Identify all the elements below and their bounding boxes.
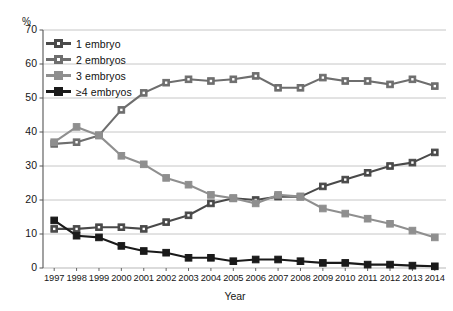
legend-swatch-icon (46, 38, 71, 49)
data-point-marker (320, 205, 327, 212)
data-point-marker (342, 210, 349, 217)
data-point-marker (409, 262, 416, 269)
data-point-marker (51, 217, 58, 224)
data-point-marker-center (344, 178, 346, 180)
data-point-marker (73, 124, 80, 131)
data-point-marker (252, 200, 259, 207)
data-point-marker (73, 232, 80, 239)
legend-item-label: 2 embryos (76, 54, 126, 66)
legend-marker (54, 71, 63, 80)
data-point-marker (275, 192, 282, 199)
series-line (54, 127, 435, 237)
data-point-marker (163, 175, 170, 182)
y-axis-tick-label: 0 (15, 261, 37, 273)
legend-swatch-icon (46, 86, 71, 97)
legend-marker (54, 87, 63, 96)
series--4-embryos (51, 217, 438, 270)
y-axis-tick-label: 10 (15, 227, 37, 239)
y-axis-tick-label: 20 (15, 193, 37, 205)
y-axis-tick-label: 50 (15, 91, 37, 103)
data-point-marker (51, 139, 58, 146)
data-point-marker (409, 227, 416, 234)
data-point-marker (432, 234, 439, 241)
legend-item[interactable]: ≥4 embryos (46, 84, 132, 99)
data-point-marker (432, 263, 439, 270)
chart-legend: 1 embryo2 embryos3 embryos≥4 embryos (46, 36, 132, 100)
data-point-marker-center (411, 78, 413, 80)
legend-item-label: ≥4 embryos (76, 86, 132, 98)
data-point-marker-center (322, 76, 324, 78)
data-point-marker-center (254, 75, 256, 77)
x-axis-tick-label: 2014 (420, 273, 450, 283)
data-point-marker-center (187, 78, 189, 80)
data-point-marker (320, 260, 327, 267)
data-point-marker-center (75, 228, 77, 230)
data-point-marker-center (277, 87, 279, 89)
data-point-marker (252, 256, 259, 263)
legend-marker-center (57, 58, 60, 61)
data-point-marker-center (210, 202, 212, 204)
data-point-marker (230, 258, 237, 265)
data-point-marker (96, 132, 103, 139)
data-point-marker-center (232, 78, 234, 80)
data-point-marker-center (389, 83, 391, 85)
data-point-marker-center (75, 141, 77, 143)
data-point-marker-center (434, 85, 436, 87)
data-point-marker (387, 221, 394, 228)
data-point-marker (163, 249, 170, 256)
data-point-marker (342, 260, 349, 267)
data-point-marker-center (143, 92, 145, 94)
legend-item[interactable]: 2 embryos (46, 52, 132, 67)
data-point-marker (297, 193, 304, 200)
data-point-marker-center (434, 151, 436, 153)
y-axis-tick-label: 70 (15, 23, 37, 35)
data-point-marker (118, 243, 125, 250)
chart-container: % 1 embryo2 embryos3 embryos≥4 embryos 0… (0, 0, 453, 311)
data-point-marker (364, 215, 371, 222)
data-point-marker-center (210, 80, 212, 82)
data-point-marker-center (366, 80, 368, 82)
data-point-marker-center (143, 228, 145, 230)
data-point-marker (140, 161, 147, 168)
data-point-marker (208, 192, 215, 199)
data-point-marker (208, 255, 215, 262)
series-line (54, 152, 435, 229)
data-point-marker-center (411, 161, 413, 163)
data-point-marker (185, 255, 192, 262)
data-point-marker-center (53, 228, 55, 230)
data-point-marker (275, 256, 282, 263)
legend-item-label: 3 embryos (76, 70, 126, 82)
legend-swatch-icon (46, 70, 71, 81)
data-point-marker-center (344, 80, 346, 82)
legend-swatch-icon (46, 54, 71, 65)
legend-item[interactable]: 1 embryo (46, 36, 132, 51)
y-axis-tick-label: 40 (15, 125, 37, 137)
data-point-marker-center (299, 87, 301, 89)
y-axis-tick-label: 30 (15, 159, 37, 171)
data-point-marker-center (389, 165, 391, 167)
data-point-marker (297, 258, 304, 265)
series-3-embryos (51, 124, 438, 241)
legend-marker-center (57, 42, 60, 45)
data-point-marker-center (120, 226, 122, 228)
data-point-marker-center (165, 221, 167, 223)
data-point-marker (118, 153, 125, 160)
data-point-marker (140, 248, 147, 255)
x-axis-title: Year (185, 290, 285, 302)
data-point-marker-center (165, 82, 167, 84)
data-point-marker-center (120, 109, 122, 111)
data-point-marker-center (98, 226, 100, 228)
data-point-marker (387, 261, 394, 268)
y-axis-tick-label: 60 (15, 57, 37, 69)
data-point-marker-center (187, 214, 189, 216)
data-point-marker (185, 181, 192, 188)
legend-item-label: 1 embryo (76, 38, 121, 50)
legend-item[interactable]: 3 embryos (46, 68, 132, 83)
data-point-marker (96, 234, 103, 241)
series-1-embryo (51, 149, 438, 232)
data-point-marker-center (366, 172, 368, 174)
data-point-marker-center (322, 185, 324, 187)
data-point-marker (364, 261, 371, 268)
data-point-marker (230, 195, 237, 202)
